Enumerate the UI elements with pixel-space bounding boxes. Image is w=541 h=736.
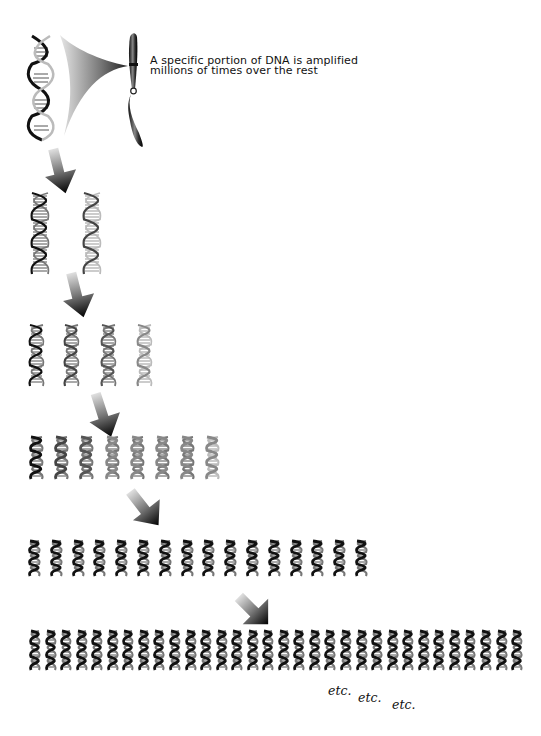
dna-helix-copy: [106, 436, 119, 479]
dna-helix-copy: [512, 630, 522, 670]
dna-helix-copy: [46, 630, 56, 670]
dna-helix-copy: [248, 630, 258, 670]
dna-helix-copy: [116, 540, 127, 576]
dna-helix-copy: [64, 324, 79, 386]
dna-helix-copy: [29, 324, 44, 386]
dna-helix-source: [28, 34, 56, 142]
dna-helix-copy: [77, 630, 87, 670]
dna-helix-copy: [30, 436, 43, 479]
dna-helix-copy: [225, 540, 236, 576]
dna-helix-copy: [73, 540, 84, 576]
dna-helix-copy: [372, 630, 382, 670]
dna-helix-copy: [419, 630, 429, 670]
pcr-diagram: A specific portion of DNA is amplified m…: [0, 0, 541, 736]
dna-helix-copy: [182, 540, 193, 576]
dna-helix-copy: [154, 630, 164, 670]
dna-helix-copy: [51, 540, 62, 576]
dna-helix-copy: [357, 630, 367, 670]
caption-line-2: millions of times over the rest: [150, 66, 358, 76]
dna-helix-copy: [388, 630, 398, 670]
arrow-down-icon: [82, 388, 127, 442]
dna-helix-copy: [279, 630, 289, 670]
dna-helix-copy: [83, 192, 101, 274]
dna-helix-copy: [80, 436, 93, 479]
dna-helix-copy: [160, 540, 171, 576]
dna-helix-copy: [403, 630, 413, 670]
dna-helix-copy: [123, 630, 133, 670]
dna-helix-copy: [181, 436, 194, 479]
dna-helix-copy: [108, 630, 118, 670]
dna-helix-copy: [101, 324, 116, 386]
dna-helix-copy: [92, 630, 102, 670]
dna-helix-copy: [291, 540, 302, 576]
amplified-region-wedge: [58, 34, 130, 138]
dna-helix-copy: [186, 630, 196, 670]
dna-helix-copy: [203, 540, 214, 576]
dna-helix-copy: [138, 540, 149, 576]
dna-helix-copy: [61, 630, 71, 670]
dna-helix-copy: [325, 630, 335, 670]
dna-helix-copy: [156, 436, 169, 479]
dna-helix-copy: [310, 630, 320, 670]
dna-helix-copy: [137, 324, 152, 386]
dna-helix-copy: [294, 630, 304, 670]
arrow-down-icon: [57, 269, 99, 321]
dna-helix-copy: [139, 630, 149, 670]
dna-helix-copy: [247, 540, 258, 576]
chromosome-icon: [122, 33, 150, 149]
dna-helix-copy: [30, 630, 40, 670]
dna-helix-copy: [217, 630, 227, 670]
dna-helix-copy: [55, 436, 68, 479]
dna-helix-copy: [341, 630, 351, 670]
dna-helix-copy: [29, 540, 40, 576]
arrow-down-icon: [227, 583, 281, 637]
dna-helix-copy: [263, 630, 273, 670]
dna-helix-copy: [201, 630, 211, 670]
dna-helix-copy: [497, 630, 507, 670]
dna-helix-copy: [481, 630, 491, 670]
dna-helix-copy: [356, 540, 367, 576]
dna-helix-copy: [31, 192, 49, 274]
dna-helix-copy: [269, 540, 280, 576]
dna-helix-copy: [131, 436, 144, 479]
etc-label: etc.: [392, 697, 415, 712]
etc-label: etc.: [358, 690, 381, 705]
dna-helix-copy: [206, 436, 219, 479]
dna-helix-copy: [434, 630, 444, 670]
dna-helix-copy: [312, 540, 323, 576]
dna-helix-copy: [170, 630, 180, 670]
caption: A specific portion of DNA is amplified m…: [150, 56, 358, 76]
dna-helix-copy: [334, 540, 345, 576]
dna-helix-copy: [465, 630, 475, 670]
dna-helix-copy: [450, 630, 460, 670]
arrow-down-icon: [118, 480, 172, 536]
etc-label: etc.: [328, 683, 351, 698]
dna-helix-copy: [94, 540, 105, 576]
dna-helix-copy: [232, 630, 242, 670]
arrow-down-icon: [39, 145, 81, 197]
